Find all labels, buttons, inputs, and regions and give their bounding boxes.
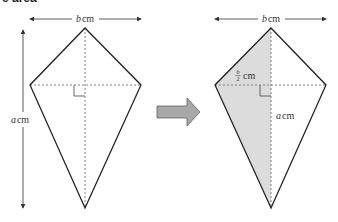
half-width-numerator: b <box>237 69 240 75</box>
half-width-unit: cm <box>243 70 255 81</box>
half-width-denominator: 2 <box>237 76 240 82</box>
right-arrow-icon <box>157 98 200 126</box>
width-label: bcm <box>262 13 280 24</box>
width-label: bcm <box>76 13 94 24</box>
height-label: acm <box>11 114 29 125</box>
left-kite: bcm acm <box>11 13 141 208</box>
shaded-half <box>215 28 271 208</box>
kite-area-diagram: bcm acm bcm b 2 cm acm <box>0 0 338 222</box>
right-angle-icon <box>74 85 85 96</box>
right-kite: bcm b 2 cm acm <box>215 13 326 208</box>
kite-outline <box>30 28 141 208</box>
height-label: acm <box>276 110 294 121</box>
